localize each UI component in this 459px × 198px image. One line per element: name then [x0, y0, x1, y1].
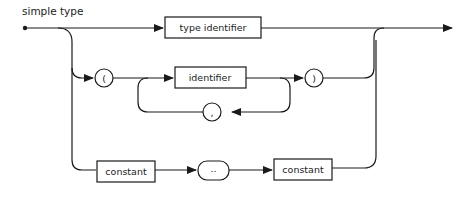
open-paren-node: ( — [95, 69, 113, 87]
diagram-title: simple type — [22, 5, 83, 17]
svg-text:constant: constant — [282, 164, 324, 175]
range-node: .. — [198, 161, 229, 180]
close-paren-node: ) — [305, 69, 323, 87]
comma-node: , — [203, 103, 221, 121]
svg-text:type identifier: type identifier — [180, 22, 247, 33]
svg-text:): ) — [312, 73, 316, 84]
merge-range — [332, 40, 376, 168]
identifier-box: identifier — [175, 67, 246, 88]
merge-paren — [323, 28, 384, 78]
branch-left — [58, 28, 96, 170]
svg-text:identifier: identifier — [189, 72, 232, 83]
type-identifier-box: type identifier — [165, 17, 261, 38]
branch-paren — [72, 68, 93, 78]
start-dot — [23, 26, 27, 30]
constant-box-1: constant — [97, 161, 155, 182]
syntax-diagram: simple type type identifier ( identifier… — [0, 0, 459, 198]
svg-text:constant: constant — [105, 166, 147, 177]
svg-text:..: .. — [210, 163, 216, 174]
svg-text:,: , — [210, 107, 213, 118]
constant-box-2: constant — [274, 159, 332, 180]
svg-text:(: ( — [102, 73, 106, 84]
